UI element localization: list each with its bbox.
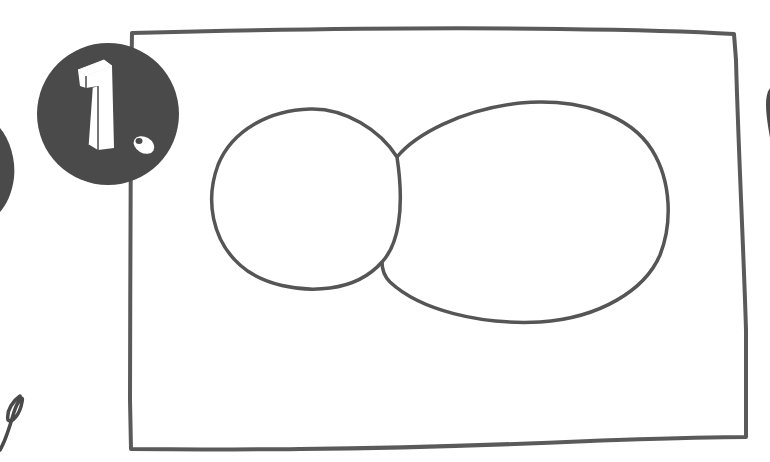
sketch-frame [130,28,746,449]
illustration-canvas: 1. [0,0,770,462]
partial-circle-left-edge [0,128,14,212]
small-circle-shape [212,109,401,289]
handwriting-fragment [0,396,22,450]
step-badge [37,43,179,185]
partial-circle-right-edge [766,88,770,138]
large-oval-shape [382,102,668,322]
